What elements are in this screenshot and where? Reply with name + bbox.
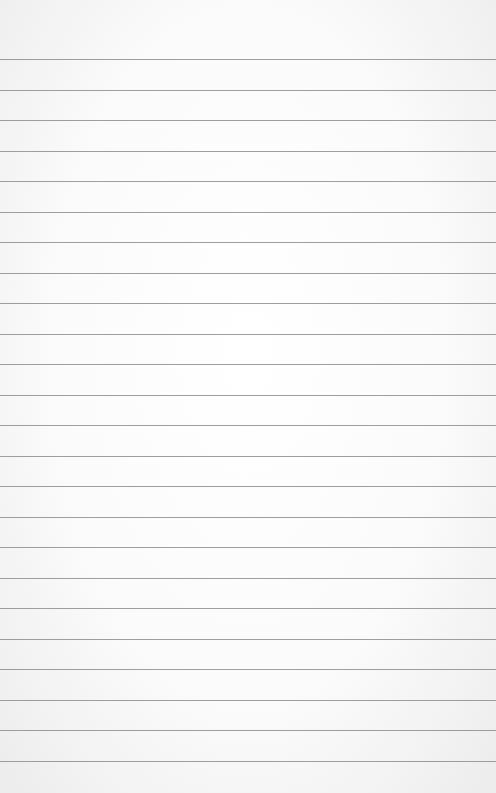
ruled-line xyxy=(0,242,496,243)
ruled-line xyxy=(0,59,496,60)
ruled-line xyxy=(0,486,496,487)
ruled-line xyxy=(0,151,496,152)
ruled-line xyxy=(0,517,496,518)
ruled-line xyxy=(0,700,496,701)
ruled-line xyxy=(0,395,496,396)
ruled-line xyxy=(0,639,496,640)
ruled-line xyxy=(0,608,496,609)
ruled-line xyxy=(0,212,496,213)
ruled-line xyxy=(0,456,496,457)
ruled-line xyxy=(0,181,496,182)
ruled-line xyxy=(0,303,496,304)
ruled-line xyxy=(0,761,496,762)
ruled-line xyxy=(0,364,496,365)
ruled-line xyxy=(0,425,496,426)
ruled-line xyxy=(0,730,496,731)
ruled-line xyxy=(0,547,496,548)
ruled-line xyxy=(0,90,496,91)
ruled-line xyxy=(0,273,496,274)
ruled-line xyxy=(0,578,496,579)
ruled-line xyxy=(0,334,496,335)
ruled-line xyxy=(0,120,496,121)
lined-paper-sheet xyxy=(0,0,496,793)
ruled-line xyxy=(0,669,496,670)
